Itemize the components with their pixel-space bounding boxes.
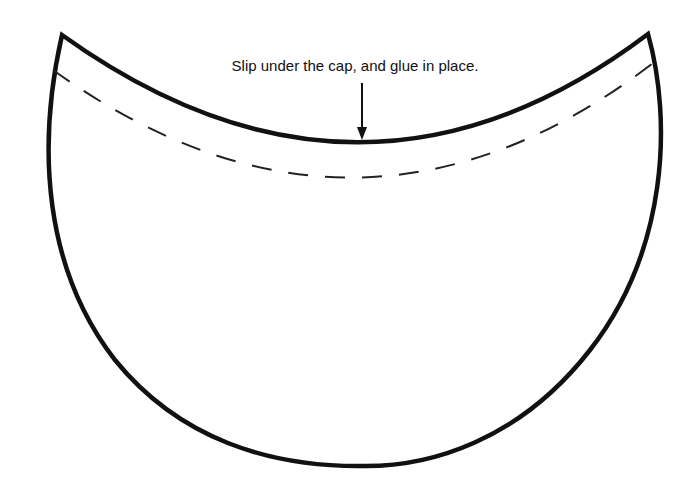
instruction-label: Slip under the cap, and glue in place. xyxy=(200,57,510,74)
arrow-down-icon xyxy=(357,127,367,140)
cutout-outline xyxy=(49,34,661,466)
